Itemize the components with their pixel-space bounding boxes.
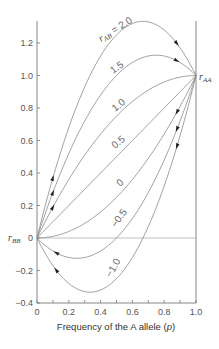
x-axis-title: Frequency of the A allele (p)	[57, 321, 175, 332]
direction-arrow-icon	[53, 250, 60, 256]
x-tick-label: 0.4	[94, 307, 107, 317]
curve-label-0: 0	[114, 176, 126, 188]
y-tick-label: 1.0	[20, 71, 33, 81]
y-tick-label: 0.4	[20, 168, 33, 178]
y-tick-label: −0.4	[15, 298, 33, 308]
direction-arrow-icon	[174, 126, 180, 133]
curve-label-minus-0-5: −0.5	[109, 206, 130, 229]
curve-label-2-0: rAB = 2.0	[96, 14, 135, 45]
x-tick-label: 0	[34, 307, 39, 317]
y-tick-label: 0.8	[20, 103, 33, 113]
direction-arrow-icon	[173, 58, 180, 64]
r-aa-label: rAA	[199, 71, 212, 84]
x-tick-label: 0.6	[126, 307, 139, 317]
chart: −0.4−0.200.20.40.60.81.01.200.20.40.60.8…	[0, 0, 219, 349]
direction-arrow-icon	[174, 143, 179, 150]
x-tick-label: 1.0	[190, 307, 203, 317]
curve-label-0-5: 0.5	[109, 133, 127, 151]
x-tick-label: 0.2	[63, 307, 76, 317]
curve-label-1-0: 1.0	[109, 96, 127, 113]
curve-label-1-5: 1.5	[108, 58, 126, 75]
r-bb-label: rBB	[8, 232, 21, 245]
curve-label-minus-1-0: −1.0	[103, 256, 123, 279]
y-tick-label: 0.6	[20, 136, 33, 146]
y-tick-label: 0	[28, 233, 33, 243]
direction-arrow-icon	[50, 204, 56, 211]
y-tick-label: −0.2	[15, 266, 33, 276]
x-tick-label: 0.8	[158, 307, 171, 317]
curve-2minus-0	[37, 21, 196, 238]
direction-arrow-icon	[50, 189, 55, 196]
y-tick-label: 0.2	[20, 201, 33, 211]
direction-arrow-icon	[50, 174, 55, 181]
arrows	[50, 40, 181, 273]
y-tick-label: 1.2	[20, 38, 33, 48]
direction-arrow-icon	[174, 109, 180, 116]
